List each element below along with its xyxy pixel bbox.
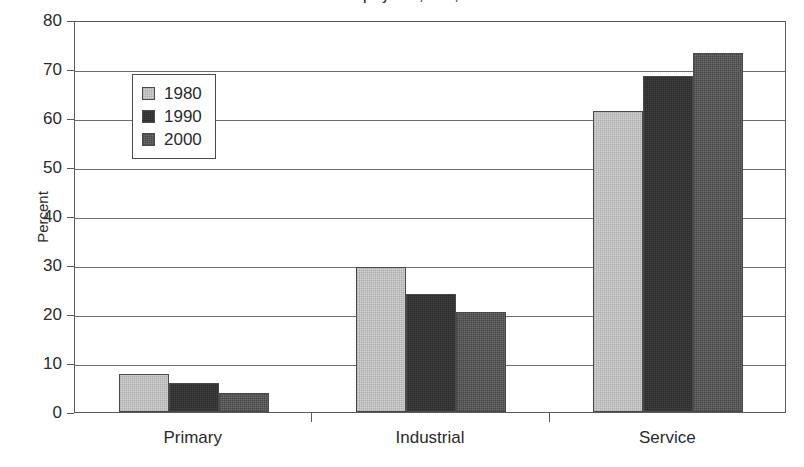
legend-rows: 198019902000	[142, 82, 202, 151]
bar-industrial-1990[interactable]	[406, 294, 456, 412]
y-tick-mark-0	[67, 413, 74, 414]
bar-primary-1980[interactable]	[119, 374, 169, 412]
y-tick-mark-40	[67, 217, 74, 218]
y-tick-label-50: 50	[18, 158, 62, 178]
x-axis-label-service: Service	[639, 428, 696, 448]
bar-service-2000[interactable]	[693, 53, 743, 412]
y-tick-mark-20	[67, 315, 74, 316]
y-tick-label-30: 30	[18, 256, 62, 276]
y-tick-label-80: 80	[18, 11, 62, 31]
x-tick-separator-1	[311, 413, 312, 422]
chart-figure: Share of Total Employment, 1980, 1990 an…	[0, 0, 804, 467]
legend-swatch-1990-icon	[142, 110, 155, 123]
y-tick-mark-80	[67, 21, 74, 22]
legend-item-2000[interactable]: 2000	[142, 128, 202, 151]
y-tick-mark-70	[67, 70, 74, 71]
bar-industrial-1980[interactable]	[356, 267, 406, 412]
y-tick-label-0: 0	[18, 403, 62, 423]
bar-group-industrial	[356, 22, 506, 412]
y-tick-mark-60	[67, 119, 74, 120]
x-axis-label-industrial: Industrial	[396, 428, 465, 448]
y-tick-mark-30	[67, 266, 74, 267]
x-tick-separator-2	[549, 413, 550, 422]
y-tick-label-10: 10	[18, 354, 62, 374]
bar-service-1980[interactable]	[593, 111, 643, 412]
y-tick-label-70: 70	[18, 60, 62, 80]
y-tick-mark-10	[67, 364, 74, 365]
chart-title: Share of Total Employment, 1980, 1990 an…	[0, 0, 804, 3]
legend: 198019902000	[132, 74, 216, 159]
y-tick-label-40: 40	[18, 207, 62, 227]
x-axis-label-primary: Primary	[163, 428, 222, 448]
bar-primary-1990[interactable]	[169, 383, 219, 412]
legend-swatch-1980-icon	[142, 87, 155, 100]
y-tick-label-20: 20	[18, 305, 62, 325]
legend-label-1980: 1980	[164, 85, 202, 102]
legend-item-1980[interactable]: 1980	[142, 82, 202, 105]
bar-service-1990[interactable]	[643, 76, 693, 412]
legend-label-1990: 1990	[164, 108, 202, 125]
bar-industrial-2000[interactable]	[456, 312, 506, 412]
legend-label-2000: 2000	[164, 131, 202, 148]
legend-item-1990[interactable]: 1990	[142, 105, 202, 128]
y-tick-label-60: 60	[18, 109, 62, 129]
bar-primary-2000[interactable]	[219, 393, 269, 412]
legend-swatch-2000-icon	[142, 133, 155, 146]
y-tick-mark-50	[67, 168, 74, 169]
bar-group-service	[593, 22, 743, 412]
